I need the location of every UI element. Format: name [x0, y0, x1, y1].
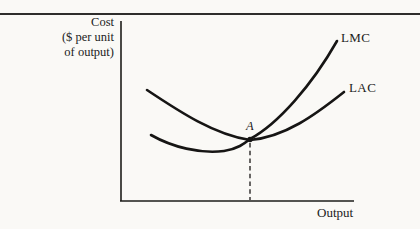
- y-axis-label-line2: ($ per unit: [10, 30, 114, 45]
- lmc-curve-label: LMC: [341, 30, 370, 46]
- point-a-marker: [247, 137, 252, 142]
- y-axis-label-line3: of output): [10, 45, 114, 60]
- point-a-label: A: [246, 119, 254, 134]
- economics-cost-curve-figure: Cost ($ per unit of output) Output LMC L…: [0, 0, 420, 229]
- y-axis-label: Cost ($ per unit of output): [10, 15, 114, 60]
- lmc-curve: [151, 41, 337, 152]
- y-axis-label-line1: Cost: [10, 15, 114, 30]
- x-axis-label: Output: [317, 205, 353, 221]
- lac-curve-label: LAC: [349, 80, 376, 96]
